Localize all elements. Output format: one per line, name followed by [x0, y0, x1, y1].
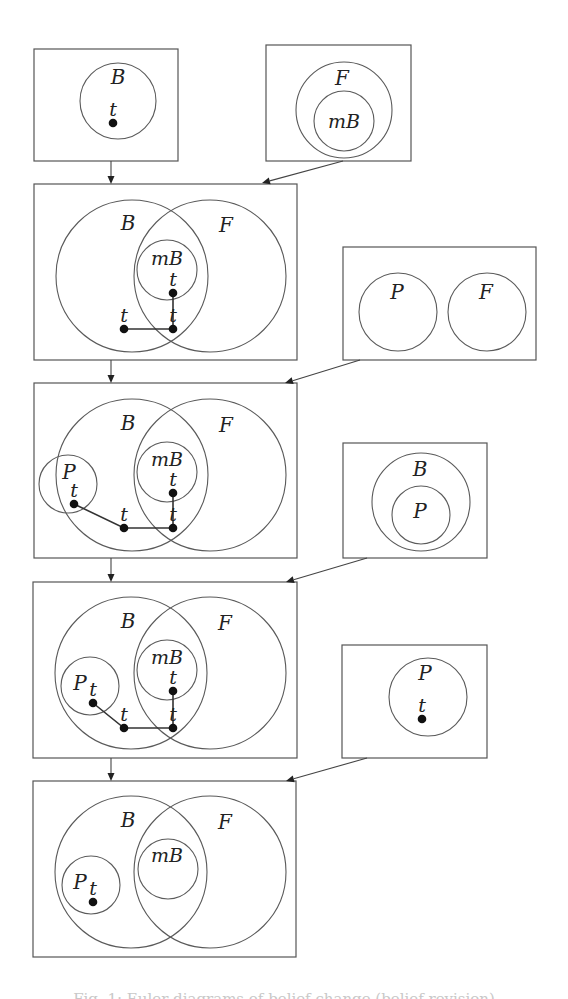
- set-label: mB: [328, 110, 360, 132]
- arrowhead-icon: [108, 574, 115, 582]
- world-point-label: t: [169, 468, 177, 490]
- figure-caption: Fig. 1: Euler diagrams of belief change …: [0, 988, 568, 999]
- flow-arrow: [108, 758, 115, 781]
- world-point-label: t: [70, 479, 78, 501]
- world-point-label: t: [169, 503, 177, 525]
- panel-frame: [34, 184, 297, 360]
- panel-p-f: PF: [343, 247, 536, 360]
- set-label: B: [120, 211, 136, 235]
- world-point-label: t: [109, 98, 117, 120]
- set-label: P: [389, 280, 404, 304]
- panel-merge-2: BFmBPtttt: [34, 383, 297, 558]
- arrowhead-icon: [108, 176, 115, 184]
- world-point-label: t: [120, 503, 128, 525]
- euler-diagram: BtFmBBFmBtttPFBFmBPttttBPBFmBPttttPtBFmB…: [0, 0, 568, 999]
- panel-b-initial: Bt: [34, 49, 178, 161]
- set-label: mB: [151, 646, 183, 668]
- panel-frame: [33, 582, 297, 758]
- set-label: B: [120, 808, 136, 832]
- world-point-label: t: [169, 666, 177, 688]
- arrowhead-icon: [108, 375, 115, 383]
- set-label: F: [218, 413, 234, 437]
- world-point-label: t: [418, 694, 426, 716]
- arrowhead-icon: [108, 773, 115, 781]
- panels-layer: BtFmBBFmBtttPFBFmBPttttBPBFmBPttttPtBFmB…: [33, 45, 536, 957]
- world-point-label: t: [169, 703, 177, 725]
- set-label: mB: [151, 247, 183, 269]
- flow-arrow: [262, 161, 343, 184]
- panel-frame: [342, 645, 487, 758]
- set-label: F: [217, 810, 233, 834]
- panel-frame: [33, 781, 296, 957]
- world-point-label: t: [169, 268, 177, 290]
- flow-arrow: [108, 360, 115, 383]
- set-label: B: [120, 411, 136, 435]
- set-label: F: [478, 280, 494, 304]
- world-point-label: t: [120, 304, 128, 326]
- flow-arrow: [285, 360, 360, 384]
- set-label: F: [218, 213, 234, 237]
- set-label: P: [72, 870, 87, 894]
- set-label: F: [217, 611, 233, 635]
- panel-frame: [34, 49, 178, 161]
- set-label: F: [334, 66, 350, 90]
- flow-arrow: [108, 161, 115, 184]
- panel-frame: [343, 247, 536, 360]
- set-label: B: [110, 65, 126, 89]
- flow-arrow: [286, 758, 367, 782]
- world-point-label: t: [169, 304, 177, 326]
- panel-merge-1: BFmBttt: [34, 184, 297, 360]
- panel-p-t: Pt: [342, 645, 487, 758]
- world-point-label: t: [120, 703, 128, 725]
- set-label: B: [412, 457, 428, 481]
- set-label: mB: [151, 448, 183, 470]
- world-point-label: t: [89, 678, 97, 700]
- panel-merge-3: BFmBPtttt: [33, 582, 297, 758]
- set-label: P: [72, 671, 87, 695]
- panel-f-mb: FmB: [266, 45, 411, 161]
- panel-b-p: BP: [343, 443, 487, 558]
- set-label: B: [120, 609, 136, 633]
- panel-final: BFmBPt: [33, 781, 296, 957]
- set-label: mB: [151, 844, 183, 866]
- arrowhead-icon: [286, 576, 295, 583]
- arrowhead-icon: [286, 775, 295, 782]
- world-point-label: t: [89, 877, 97, 899]
- set-label: P: [417, 661, 432, 685]
- flow-arrow: [108, 558, 115, 582]
- set-label: P: [412, 499, 427, 523]
- flow-arrow: [286, 558, 367, 583]
- arrowhead-icon: [285, 377, 294, 384]
- arrowhead-icon: [262, 178, 271, 185]
